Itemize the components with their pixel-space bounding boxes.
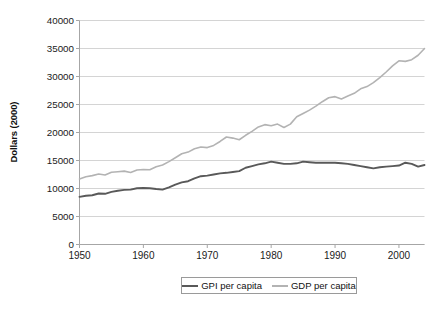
legend-swatch-gdp <box>272 285 288 287</box>
plot-area <box>0 0 437 309</box>
chart-container: Dollars (2000) 0500010000150002000025000… <box>0 0 437 309</box>
legend-item-gdp[interactable]: GDP per capita <box>272 280 356 291</box>
series-line-gpi <box>80 162 425 197</box>
legend-swatch-gpi <box>182 285 198 287</box>
series-line-gdp <box>80 49 425 179</box>
legend-label-gpi: GPI per capita <box>201 280 262 291</box>
chart-legend: GPI per capita GDP per capita <box>181 277 357 294</box>
legend-item-gpi[interactable]: GPI per capita <box>182 280 262 291</box>
legend-label-gdp: GDP per capita <box>291 280 356 291</box>
